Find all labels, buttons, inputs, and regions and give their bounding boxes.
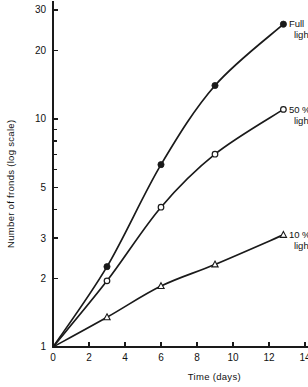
data-point-marker bbox=[158, 162, 164, 168]
x-axis-title: Time (days) bbox=[188, 371, 241, 382]
x-axis-tick-labels: 02468101214 bbox=[50, 352, 308, 363]
series-line-3 bbox=[53, 235, 283, 347]
x-tick-label: 6 bbox=[158, 352, 164, 363]
y-tick-label: 30 bbox=[35, 4, 47, 15]
data-point-marker bbox=[281, 107, 287, 113]
data-point-marker bbox=[280, 232, 286, 238]
series-label-1-line2: light bbox=[294, 29, 308, 40]
series-line-2 bbox=[53, 109, 283, 347]
x-tick-label: 10 bbox=[227, 352, 239, 363]
series-line-1 bbox=[53, 24, 283, 347]
x-tick-label: 4 bbox=[122, 352, 128, 363]
y-tick-label: 5 bbox=[40, 182, 46, 193]
y-axis-group: 1235102030 bbox=[35, 1, 58, 353]
data-point-marker bbox=[158, 204, 164, 210]
data-point-marker bbox=[212, 82, 218, 88]
y-tick-label: 10 bbox=[35, 113, 47, 124]
series-label-2: 50 % bbox=[289, 104, 308, 115]
data-point-marker bbox=[280, 21, 286, 27]
data-point-marker bbox=[104, 264, 110, 270]
series-label-1: Full bbox=[289, 18, 304, 29]
y-tick-label: 20 bbox=[35, 45, 47, 56]
series-labels: Fulllight50 %light10 %light bbox=[289, 18, 308, 251]
y-tick-label: 2 bbox=[40, 273, 46, 284]
x-tick-label: 14 bbox=[299, 352, 308, 363]
series-curves bbox=[53, 24, 283, 347]
chart-canvas: 1235102030 02468101214 Fulllight50 %ligh… bbox=[0, 0, 308, 387]
data-point-marker bbox=[104, 278, 110, 284]
y-tick-label: 3 bbox=[40, 233, 46, 244]
x-tick-label: 12 bbox=[263, 352, 275, 363]
x-tick-label: 8 bbox=[194, 352, 200, 363]
x-tick-label: 2 bbox=[86, 352, 92, 363]
y-axis-title: Number of fronds (log scale) bbox=[5, 120, 16, 248]
series-label-3-line2: light bbox=[294, 240, 308, 251]
y-tick-label: 1 bbox=[40, 341, 46, 352]
series-label-2-line2: light bbox=[294, 115, 308, 126]
x-tick-label: 0 bbox=[50, 352, 56, 363]
x-axis-group: 02468101214 bbox=[50, 342, 308, 363]
data-point-marker bbox=[212, 151, 218, 157]
y-axis-tick-labels: 1235102030 bbox=[35, 4, 47, 352]
chart-figure: 1235102030 02468101214 Fulllight50 %ligh… bbox=[0, 0, 308, 387]
series-label-3: 10 % bbox=[289, 229, 308, 240]
